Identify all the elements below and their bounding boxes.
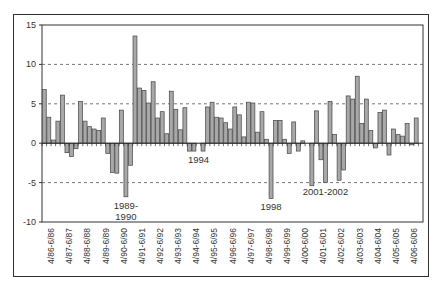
x-tick-label: 4/98-6/98 <box>264 228 274 264</box>
bar <box>401 136 405 143</box>
annotation-label: 2001-2002 <box>303 186 348 197</box>
bar <box>292 122 296 143</box>
bar <box>97 131 101 144</box>
y-tick-label: -10 <box>23 217 36 227</box>
bar <box>255 132 259 143</box>
x-tick-label: 4/99-6/99 <box>282 228 292 264</box>
y-tick-label: -5 <box>28 178 36 188</box>
bar <box>351 99 355 143</box>
bar <box>251 103 255 143</box>
x-tick-label: 4/03-6/03 <box>355 228 365 264</box>
bar <box>147 103 151 143</box>
bar <box>265 139 269 143</box>
bar <box>210 102 214 143</box>
y-tick-label: 15 <box>26 20 36 30</box>
bar <box>219 118 223 143</box>
x-tick-label: 4/87-6/87 <box>64 228 74 264</box>
bar <box>192 143 196 151</box>
bar <box>156 118 160 143</box>
x-tick-label: 4/88-6/88 <box>82 228 92 264</box>
bar <box>133 36 137 143</box>
bar <box>88 127 92 144</box>
bar <box>233 107 237 143</box>
bar <box>70 143 74 156</box>
x-tick-label: 4/06-6/06 <box>409 228 419 264</box>
bar <box>319 143 323 160</box>
bar <box>328 101 332 143</box>
x-tick-label: 4/05-6/05 <box>391 228 401 264</box>
bar <box>79 101 83 143</box>
bar <box>187 143 191 151</box>
x-tick-label: 4/97-6/97 <box>246 228 256 264</box>
bar <box>405 124 409 144</box>
bar <box>47 117 51 143</box>
bar <box>342 143 346 170</box>
x-tick-label: 4/90-6/90 <box>119 228 129 264</box>
x-tick-label: 4/01-6/01 <box>318 228 328 264</box>
bar <box>42 90 46 144</box>
annotation-label: 1998 <box>260 201 281 212</box>
bar <box>396 135 400 144</box>
y-tick-label: 0 <box>31 138 36 148</box>
bar <box>392 129 396 143</box>
bar <box>283 139 287 143</box>
bar <box>246 102 250 143</box>
bar <box>224 123 228 143</box>
bar <box>369 131 373 144</box>
bar <box>414 118 418 143</box>
bar <box>382 110 386 143</box>
y-tick-label: 10 <box>26 59 36 69</box>
x-tick-label: 4/91-6/91 <box>137 228 147 264</box>
bar <box>310 143 314 186</box>
bar <box>387 143 391 155</box>
bar <box>274 120 278 143</box>
bar <box>165 134 169 143</box>
annotation-label: 1990 <box>115 211 136 222</box>
bar <box>115 143 119 173</box>
x-tick-label: 4/04-6/04 <box>373 228 383 264</box>
bar <box>119 110 123 143</box>
bar <box>178 130 182 143</box>
bar <box>337 143 341 180</box>
x-tick-label: 4/96-6/96 <box>228 228 238 264</box>
bar <box>296 143 300 151</box>
bar <box>128 143 132 165</box>
x-tick-label: 4/93-6/93 <box>173 228 183 264</box>
bar <box>110 143 114 172</box>
bar <box>65 143 69 152</box>
bar <box>355 76 359 143</box>
bar <box>206 107 210 143</box>
bar <box>346 96 350 143</box>
bar <box>106 143 110 153</box>
x-tick-label: 4/92-6/92 <box>155 228 165 264</box>
bar <box>314 111 318 143</box>
bar <box>378 112 382 143</box>
bar <box>215 117 219 143</box>
bar <box>260 112 264 144</box>
bar <box>360 124 364 144</box>
bar-chart: 151050-5-104/86-6/864/87-6/874/88-6/884/… <box>0 0 439 290</box>
bar <box>151 82 155 143</box>
bar <box>174 109 178 143</box>
bar <box>124 143 128 197</box>
bar <box>201 143 205 151</box>
bar <box>60 95 64 143</box>
x-tick-label: 4/02-6/02 <box>336 228 346 264</box>
bar <box>56 121 60 143</box>
x-tick-label: 4/95-6/95 <box>209 228 219 264</box>
bar <box>269 143 273 198</box>
bar <box>324 143 328 182</box>
bar <box>138 88 142 143</box>
annotation-label: 1994 <box>188 154 209 165</box>
bar <box>333 135 337 144</box>
x-tick-label: 4/86-6/86 <box>46 228 56 264</box>
bar <box>278 120 282 143</box>
bar <box>74 143 78 149</box>
bar <box>373 143 377 148</box>
x-tick-label: 4/89-6/89 <box>101 228 111 264</box>
bar <box>160 112 164 144</box>
bar <box>183 108 187 143</box>
bar <box>364 99 368 143</box>
bar <box>169 91 173 143</box>
bar <box>142 90 146 143</box>
